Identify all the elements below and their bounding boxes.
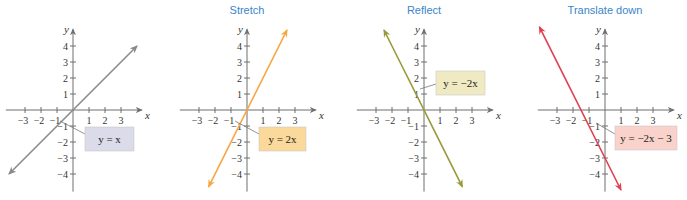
x-tick-label: 2 — [454, 115, 459, 126]
graph-panel-1: −3−2−11234321−1−2−3−4xyy = x — [6, 23, 150, 192]
panel-title: Translate down — [568, 4, 643, 16]
y-axis-label: y — [63, 23, 69, 35]
x-tick-label: −3 — [192, 115, 203, 126]
y-tick-label: −2 — [408, 137, 419, 148]
y-tick-label: −4 — [231, 169, 242, 180]
y-tick-label: 2 — [63, 73, 68, 84]
y-axis-label: y — [237, 23, 243, 35]
graph-panel-3: Reflect−3−2−11234321−1−2−3−4xyy = −2x — [357, 4, 501, 192]
panel-title: Reflect — [407, 4, 441, 16]
y-tick-label: 3 — [237, 57, 242, 68]
y-tick-label: −3 — [408, 153, 419, 164]
y-tick-label: −4 — [408, 169, 419, 180]
x-tick-label: 2 — [277, 115, 282, 126]
x-tick-label: 2 — [103, 115, 108, 126]
x-tick-label: −2 — [208, 115, 219, 126]
y-tick-label: 4 — [237, 41, 242, 52]
y-axis-label: y — [595, 23, 601, 35]
panel-title: Stretch — [230, 4, 265, 16]
x-tick-label: −2 — [385, 115, 396, 126]
y-tick-label: 1 — [237, 89, 242, 100]
y-tick-label: 3 — [414, 57, 419, 68]
y-axis-label: y — [414, 23, 420, 35]
graph-panel-2: Stretch−3−2−11234321−1−2−3−4xyy = 2x — [180, 4, 324, 192]
x-axis-label: x — [144, 109, 150, 121]
y-tick-label: −2 — [57, 137, 68, 148]
x-tick-label: 1 — [87, 115, 92, 126]
equation-label: y = −2x — [443, 77, 478, 89]
y-tick-label: 3 — [595, 57, 600, 68]
x-axis-label: x — [676, 109, 682, 121]
x-tick-label: 3 — [119, 115, 124, 126]
x-tick-label: −3 — [369, 115, 380, 126]
x-tick-label: 2 — [635, 115, 640, 126]
y-tick-label: −1 — [408, 121, 419, 132]
x-tick-label: 1 — [438, 115, 443, 126]
callout-leader — [420, 84, 436, 89]
equation-label: y = −2x − 3 — [620, 132, 672, 144]
y-tick-label: 1 — [595, 89, 600, 100]
y-tick-label: 3 — [63, 57, 68, 68]
y-tick-label: −3 — [589, 153, 600, 164]
x-tick-label: −3 — [18, 115, 29, 126]
equation-label: y = x — [98, 133, 121, 145]
equation-label: y = 2x — [268, 133, 297, 145]
x-tick-label: 1 — [261, 115, 266, 126]
y-tick-label: −4 — [57, 169, 68, 180]
line-series — [539, 27, 621, 190]
x-tick-label: 3 — [293, 115, 298, 126]
x-axis-label: x — [495, 109, 501, 121]
y-tick-label: 4 — [595, 41, 600, 52]
x-tick-label: −2 — [566, 115, 577, 126]
y-tick-label: 4 — [63, 41, 68, 52]
x-tick-label: 1 — [619, 115, 624, 126]
y-tick-label: 4 — [414, 41, 419, 52]
y-tick-label: 2 — [414, 73, 419, 84]
y-tick-label: −4 — [589, 169, 600, 180]
x-tick-label: 3 — [651, 115, 656, 126]
line-series — [209, 30, 287, 187]
y-tick-label: −3 — [231, 153, 242, 164]
transformations-figure: −3−2−11234321−1−2−3−4xyy = xStretch−3−2−… — [0, 0, 687, 200]
graph-panel-4: Translate down−3−2−11234321−1−2−3−4xyy =… — [538, 4, 682, 192]
y-tick-label: −3 — [57, 153, 68, 164]
line-series — [384, 30, 462, 187]
x-tick-label: −3 — [550, 115, 561, 126]
y-tick-label: 2 — [595, 73, 600, 84]
y-tick-label: 2 — [237, 73, 242, 84]
x-axis-label: x — [318, 109, 324, 121]
x-tick-label: −2 — [34, 115, 45, 126]
x-tick-label: 3 — [470, 115, 475, 126]
y-tick-label: 1 — [63, 89, 68, 100]
